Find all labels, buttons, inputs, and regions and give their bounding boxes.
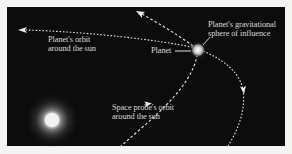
- probe-orbit-label-line2: around the sun: [112, 113, 174, 122]
- planet-orbit-label: Planet's orbit around the sun: [48, 36, 96, 53]
- probe-orbit-label: Space probe's orbit around the sun: [112, 104, 174, 121]
- probe-orbit-path: [120, 14, 197, 147]
- planet-orbit-label-line2: around the sun: [48, 45, 96, 54]
- arrow-down-icon: [240, 86, 247, 95]
- planet-label-text: Planet: [151, 47, 171, 56]
- sphere-of-influence-label: Planet's gravitational sphere of influen…: [208, 21, 276, 38]
- sun-icon: [24, 92, 80, 148]
- planet-label: Planet: [151, 47, 171, 56]
- sphere-label-line2: sphere of influence: [208, 30, 276, 39]
- arrow-left-icon: [18, 27, 27, 33]
